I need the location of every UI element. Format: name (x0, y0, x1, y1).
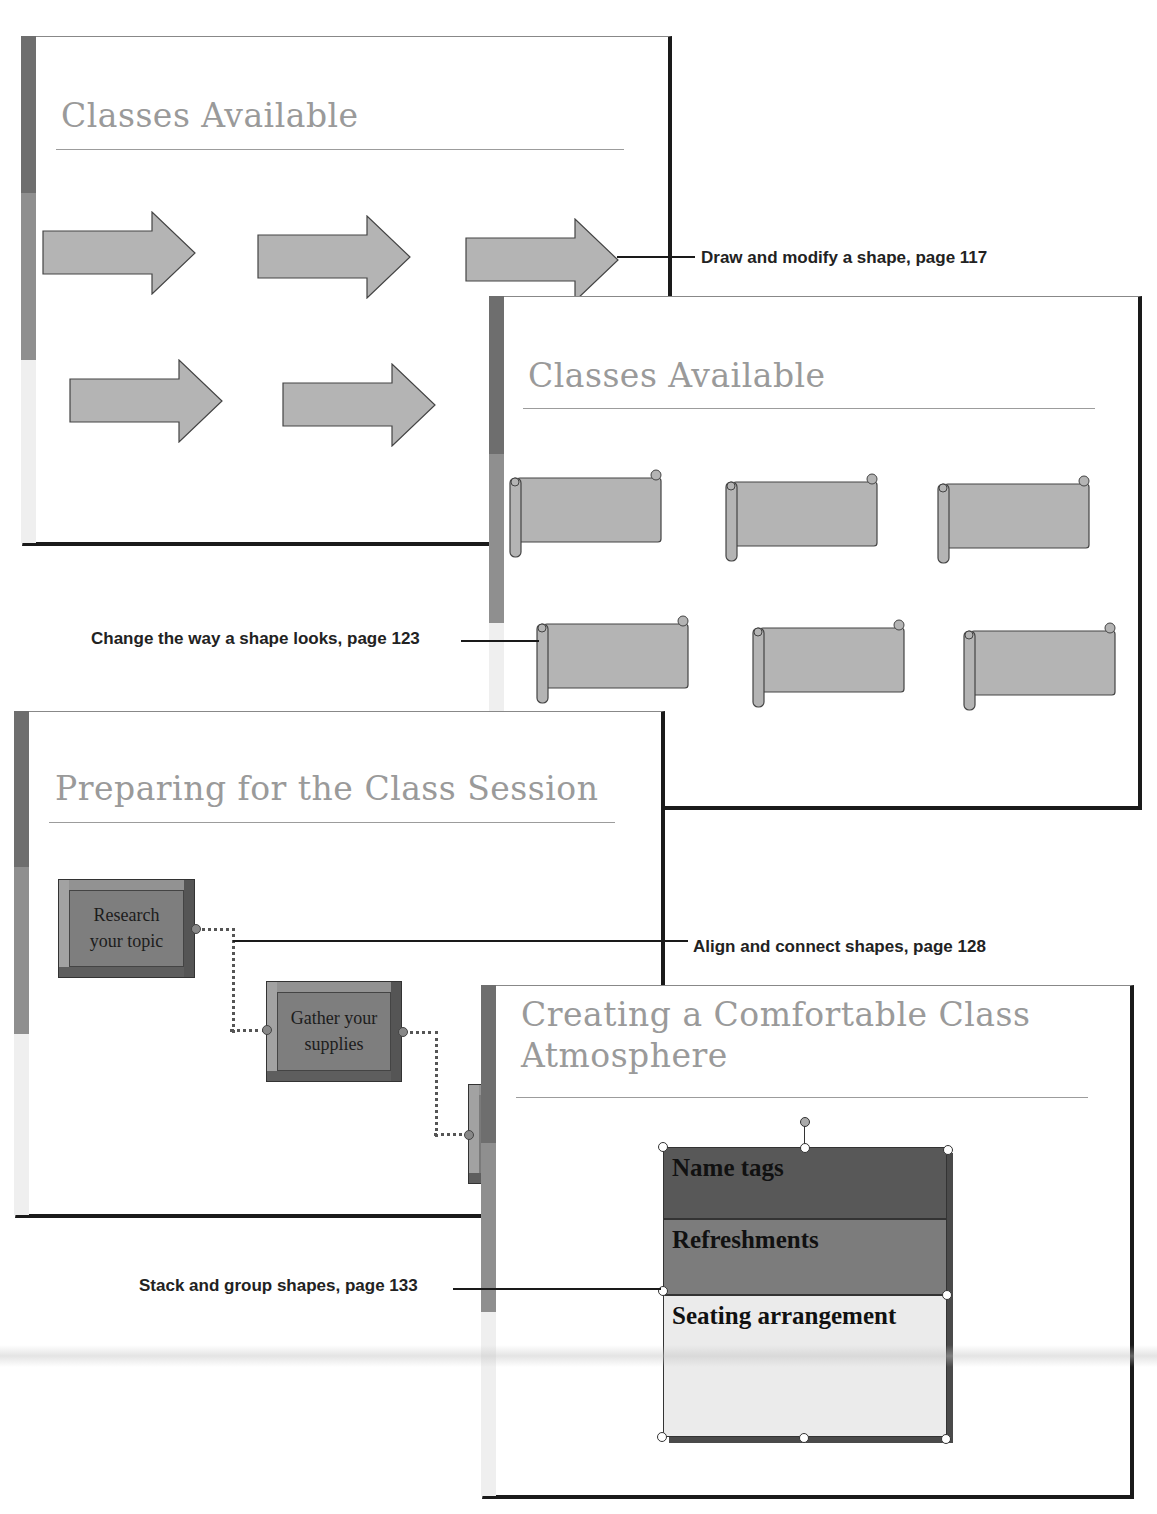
resize-handle-nw[interactable] (658, 1142, 668, 1152)
callout-leader-line (233, 940, 688, 942)
resize-handle-s[interactable] (799, 1433, 809, 1443)
scroll-shape[interactable] (937, 475, 1092, 565)
accent-bar (14, 711, 29, 1215)
title-rule (49, 822, 615, 823)
accent-bar (21, 36, 36, 543)
connection-point[interactable] (262, 1025, 272, 1035)
callout-align-connect: Align and connect shapes, page 128 (693, 937, 986, 957)
scroll-shape[interactable] (509, 469, 664, 559)
elbow-connector[interactable] (230, 1029, 266, 1033)
slide-title: Creating a Comfortable Class Atmosphere (521, 994, 1030, 1077)
resize-handle-ne[interactable] (943, 1145, 953, 1155)
title-rule (56, 149, 624, 150)
group-row-name-tags[interactable]: Name tags (663, 1147, 947, 1219)
title-line-1: Creating a Comfortable Class (521, 995, 1030, 1034)
block-arrow-shape[interactable] (69, 359, 224, 443)
title-rule (516, 1097, 1088, 1098)
rotation-handle[interactable] (800, 1117, 810, 1127)
resize-handle-e[interactable] (942, 1290, 952, 1300)
scroll-shape[interactable] (963, 622, 1118, 712)
group-row-seating[interactable]: Seating arrangement (663, 1295, 947, 1437)
grouped-shape[interactable]: Name tags Refreshments Seating arrangeme… (663, 1147, 947, 1437)
callout-leader-line (461, 640, 539, 642)
title-rule (523, 408, 1095, 409)
resize-handle-n[interactable] (800, 1143, 810, 1153)
callout-change-shape-look: Change the way a shape looks, page 123 (91, 629, 420, 649)
box-label: Gather your supplies (277, 992, 391, 1071)
connection-point[interactable] (191, 924, 201, 934)
title-line-2: Atmosphere (521, 1036, 728, 1075)
elbow-connector[interactable] (196, 928, 235, 1033)
slide-group: Creating a Comfortable Class Atmosphere … (482, 985, 1134, 1499)
flowchart-box-research[interactable]: Research your topic (58, 879, 195, 978)
scroll-shape[interactable] (752, 619, 907, 709)
accent-bar (481, 985, 496, 1496)
block-arrow-shape[interactable] (257, 215, 412, 299)
connection-point[interactable] (398, 1027, 408, 1037)
block-arrow-shape[interactable] (42, 211, 197, 295)
scroll-shape[interactable] (536, 615, 691, 705)
box-label: Research your topic (69, 890, 184, 967)
scroll-shape[interactable] (725, 473, 880, 563)
slide-title: Classes Available (61, 95, 359, 136)
block-arrow-shape[interactable] (282, 363, 437, 447)
callout-draw-modify-shape: Draw and modify a shape, page 117 (701, 248, 987, 268)
block-arrow-shape[interactable] (465, 218, 620, 302)
connection-point[interactable] (464, 1130, 474, 1140)
row-label: Seating arrangement (672, 1302, 896, 1329)
row-label: Name tags (672, 1154, 784, 1181)
resize-handle-se[interactable] (941, 1434, 951, 1444)
slide-title: Preparing for the Class Session (55, 768, 598, 809)
row-label: Refreshments (672, 1226, 819, 1253)
callout-leader-line (453, 1288, 661, 1290)
group-row-refreshments[interactable]: Refreshments (663, 1219, 947, 1295)
resize-handle-sw[interactable] (657, 1432, 667, 1442)
elbow-connector[interactable] (403, 1031, 438, 1137)
callout-stack-group: Stack and group shapes, page 133 (139, 1276, 418, 1296)
flowchart-box-gather[interactable]: Gather your supplies (266, 981, 402, 1082)
callout-leader-line (617, 256, 695, 258)
slide-title: Classes Available (528, 355, 826, 396)
elbow-connector[interactable] (434, 1133, 468, 1137)
